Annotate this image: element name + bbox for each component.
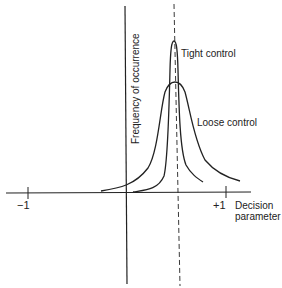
x-axis-label-line1: Decision [235, 200, 273, 211]
x-axis [6, 192, 251, 193]
y-axis [125, 6, 127, 284]
tight-control-label: Tight control [181, 48, 236, 59]
tick-label-plus-one: +1 [213, 200, 226, 211]
tight-control-curve [133, 41, 203, 192]
loose-control-curve [101, 82, 240, 191]
tick-label-minus-one: −1 [17, 200, 30, 211]
distribution-diagram [0, 0, 282, 288]
x-axis-label-line2: parameter [235, 211, 281, 222]
y-axis-label: Frequency of occurrence [130, 33, 141, 144]
loose-control-label: Loose control [197, 117, 257, 128]
